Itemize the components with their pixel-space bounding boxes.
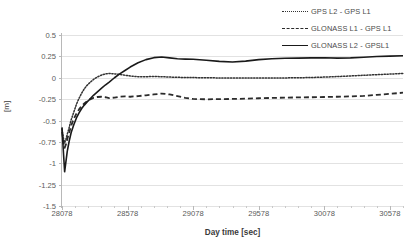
y-tick-label: -0.5 [20,116,56,125]
x-tick-mark-minor [101,206,102,208]
x-tick-label: 30578 [379,209,400,218]
y-tick-label: 0.25 [20,52,56,61]
x-tick-mark-minor [377,206,378,208]
y-tick-label: -0.25 [20,95,56,104]
y-axis-title: [m] [2,101,11,112]
x-tick-mark-minor [154,206,155,208]
x-tick-mark-minor [272,206,273,208]
x-tick-mark-minor [285,206,286,208]
x-tick-mark-minor [364,206,365,208]
legend-label: GLONASS L1 - GPS L1 [311,24,391,33]
series-line [62,73,403,142]
chart-container: GPS L2 - GPS L1 GLONASS L1 - GPS L1 GLON… [0,0,410,249]
x-tick-mark-minor [75,206,76,208]
x-tick-mark-minor [180,206,181,208]
x-tick-mark-minor [337,206,338,208]
x-axis-title: Day time [sec] [62,228,403,237]
x-tick-mark-minor [114,206,115,208]
legend-item-glonass-l1-gps-l1: GLONASS L1 - GPS L1 [282,21,410,36]
x-tick-mark-minor [246,206,247,208]
x-tick-mark-minor [233,206,234,208]
y-tick-label: -1.25 [20,180,56,189]
x-tick-mark-minor [403,206,404,208]
y-tick-label: -0.75 [20,137,56,146]
x-tick-label: 30078 [314,209,335,218]
x-tick-mark-minor [298,206,299,208]
x-tick-mark-minor [311,206,312,208]
x-tick-label: 29078 [183,209,204,218]
y-tick-label: -1 [20,159,56,168]
series-lines [62,35,403,206]
x-tick-mark-minor [88,206,89,208]
x-tick-label: 28078 [51,209,72,218]
y-tick-label: 0 [20,73,56,82]
x-tick-label: 29578 [248,209,269,218]
x-tick-mark-minor [206,206,207,208]
legend-swatch-dotted-icon [282,7,308,16]
series-line [62,93,403,148]
legend-swatch-dashed-icon [282,24,308,33]
legend-label: GPS L2 - GPS L1 [311,7,371,16]
legend-item-gps-l2-gps-l1: GPS L2 - GPS L1 [282,4,410,19]
x-tick-mark-minor [219,206,220,208]
y-tick-label: 0.5 [20,31,56,40]
x-tick-label: 28578 [117,209,138,218]
plot-area [62,35,403,206]
x-tick-mark-minor [167,206,168,208]
x-tick-mark-minor [351,206,352,208]
x-tick-mark-minor [141,206,142,208]
